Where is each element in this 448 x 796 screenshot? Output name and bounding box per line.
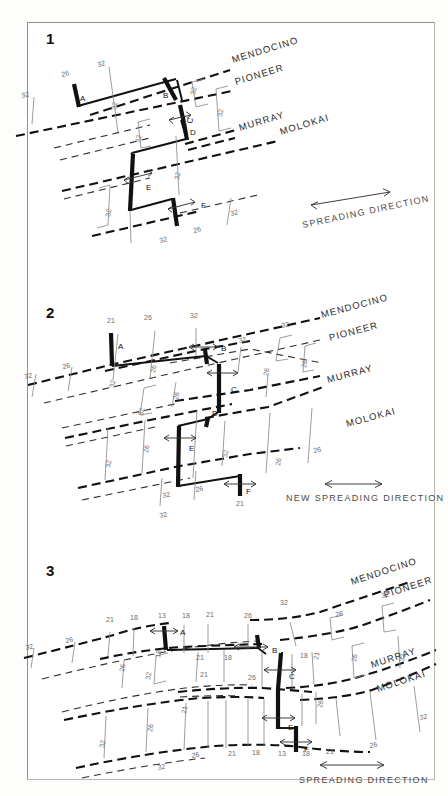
anomaly-label: 26: [195, 484, 204, 492]
anomaly-label: 26: [262, 367, 270, 376]
isochron-tick: [196, 104, 208, 107]
anomaly-label: 21: [180, 705, 188, 714]
anomaly-label: 26: [172, 391, 180, 400]
ridge-label-a: A: [80, 94, 86, 103]
fz-label-pioneer: PIONEER: [233, 62, 284, 87]
ridge-segment-e: [178, 426, 179, 487]
transform-a-b: [78, 83, 161, 106]
panel-1-canvas: MENDOCINO PIONEER MURRAY MOLOKAI A B C D…: [0, 0, 448, 268]
anomaly-label: 26: [191, 751, 200, 759]
anomaly-label: 18: [300, 652, 308, 659]
isochron-tick: [105, 428, 108, 480]
anomaly-label: 32: [97, 59, 106, 68]
anomaly-label: 32: [104, 208, 112, 217]
isochron-tick: [68, 367, 72, 391]
spreading-direction-1: SPREADING DIRECTION: [301, 189, 430, 230]
spreading-direction-arrow: [320, 762, 384, 769]
isochron-tick: [130, 211, 131, 243]
fz-molokai-line: [62, 141, 278, 191]
transform-e-f: [178, 476, 240, 486]
isochron-tick: [336, 698, 340, 736]
spreading-direction-label: SPREADING DIRECTION: [299, 775, 429, 785]
anomaly-label: 26: [313, 445, 322, 453]
transform-b-c: [177, 80, 182, 100]
ridge-label-b: B: [163, 91, 168, 100]
isochron-tick: [303, 370, 314, 372]
isochron-tick: [32, 97, 34, 124]
anomaly-label: 21: [312, 651, 320, 660]
fz-molokai-line: [64, 697, 264, 720]
ridge-segment-d: [206, 418, 208, 427]
ridge-label-c: C: [231, 385, 237, 394]
isochron-tick: [154, 656, 156, 684]
isochron-tick: [382, 603, 394, 606]
fz-label-murray: MURRAY: [369, 645, 417, 670]
ridge-label-d: D: [212, 409, 218, 418]
spreading-direction-arrow: [325, 481, 382, 488]
isochron-tick: [266, 413, 270, 473]
panel-3: MENDOCINO PIONEER MURRAY MOLOKAI A B C E…: [0, 540, 448, 796]
anomaly-label: 32: [173, 171, 181, 180]
anomaly-label: 32: [98, 739, 106, 748]
anomaly-label: 32: [189, 86, 197, 95]
ridge-label-f: F: [201, 201, 206, 210]
anomaly-label: 26: [300, 359, 308, 368]
fz-murray-line: [175, 376, 320, 401]
ridge-segment-c: [278, 653, 281, 689]
anomaly-label: 18: [130, 614, 138, 621]
isochron-tick: [144, 385, 156, 388]
fz-pioneer-line: [100, 644, 262, 659]
ridge-label-e: E: [288, 723, 293, 732]
anomaly-label: 21: [236, 500, 244, 507]
fz-label-mendocino: MENDOCINO: [320, 291, 390, 319]
fz-label-molokai: MOLOKAI: [345, 405, 397, 429]
anomaly-label: 26: [62, 361, 71, 369]
fz-label-pioneer: PIONEER: [382, 574, 433, 600]
panel-number-3: 3: [46, 562, 54, 579]
transform-e-f: [131, 199, 172, 210]
ridge-segment-a: [74, 84, 79, 107]
fz-murray-line-inner: [62, 404, 175, 428]
anomaly-label: 21: [106, 616, 114, 623]
ridge-label-e: E: [146, 183, 151, 192]
fz-label-molokai: MOLOKAI: [375, 668, 427, 694]
ridge-label-f: F: [246, 487, 251, 496]
ridge-segment-d: [184, 123, 187, 140]
anomaly-label: 18: [302, 750, 310, 757]
fz-mendocino-line: [28, 318, 320, 385]
panel-2: MENDOCINO PIONEER MURRAY MOLOKAI A B C D…: [0, 268, 448, 540]
fz-molokai-south-inner: [82, 478, 190, 500]
fz-label-molokai: MOLOKAI: [278, 111, 330, 136]
ridge-segment-e: [130, 154, 133, 211]
ridge-label-b: B: [221, 344, 226, 353]
anomaly-label: 32: [419, 713, 428, 721]
anomaly-label: 26: [142, 444, 150, 453]
anomaly-label: 21: [196, 654, 204, 661]
anomaly-label: 26: [149, 364, 157, 373]
fz-label-mendocino: MENDOCINO: [230, 34, 299, 65]
panel-number-1: 1: [46, 30, 54, 47]
anomaly-label: 26: [144, 314, 152, 321]
ridge-segment-b: [257, 635, 259, 648]
ridge-label-e: E: [189, 444, 194, 453]
anomaly-label: 18: [154, 649, 162, 658]
fz-pioneer-line: [16, 91, 232, 136]
anomaly-label: 32: [190, 312, 198, 319]
isochron-tick: [370, 692, 376, 740]
isochron-tick: [280, 335, 292, 338]
fz-pioneer-line-east: [280, 600, 430, 640]
anomaly-label: 32: [110, 101, 118, 110]
isochron-tick: [384, 630, 396, 632]
spreading-direction-3: SPREADING DIRECTION: [299, 762, 429, 786]
transform-a-b: [167, 648, 258, 650]
anomaly-label: 26: [248, 674, 256, 681]
ridge-segment-b: [205, 350, 207, 364]
transform-e-top: [131, 153, 132, 154]
anomaly-label: 32: [21, 90, 30, 99]
anomaly-label: 32: [134, 134, 142, 143]
isochron-tick: [154, 681, 166, 684]
isochron-tick: [290, 622, 296, 646]
anomaly-label: 26: [335, 609, 344, 617]
isochron-tick: [332, 637, 344, 640]
anomaly-label: 32: [230, 208, 239, 217]
